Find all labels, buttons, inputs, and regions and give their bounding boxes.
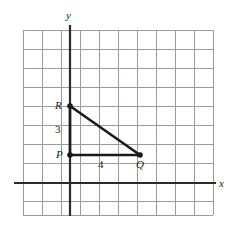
coordinate-grid-figure: y x R P Q 3 4 bbox=[0, 0, 238, 227]
vertex-point-q bbox=[137, 152, 143, 158]
vertex-point-p bbox=[67, 152, 73, 158]
vertex-label-q: Q bbox=[136, 159, 144, 170]
side-length-label-pq: 4 bbox=[98, 159, 104, 170]
grid-lines bbox=[23, 30, 214, 216]
vertex-label-r: R bbox=[55, 100, 62, 111]
vertex-point-r bbox=[67, 103, 73, 109]
y-axis-label: y bbox=[66, 10, 71, 21]
vertex-label-p: P bbox=[56, 149, 63, 160]
grid-and-triangle-canvas bbox=[0, 0, 238, 227]
side-length-label-rp: 3 bbox=[55, 124, 61, 135]
x-axis-label: x bbox=[219, 178, 224, 189]
